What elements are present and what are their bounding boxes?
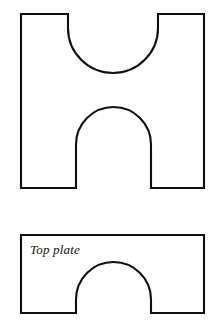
plate-diagram: Top plate <box>0 0 220 335</box>
top-plate-label: Top plate <box>30 242 80 257</box>
figure-container: Top plate <box>0 0 220 335</box>
